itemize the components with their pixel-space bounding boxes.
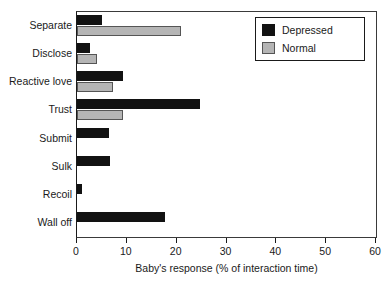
x-tick-20 <box>176 238 177 243</box>
bar-chart: SeparateDiscloseReactive loveTrustSubmit… <box>0 0 392 286</box>
x-tick-label-10: 10 <box>111 245 141 257</box>
x-tick-label-40: 40 <box>260 245 290 257</box>
bar-group-submit <box>77 125 376 153</box>
x-axis-tick-labels: 0102030405060 <box>0 245 392 259</box>
bar-depressed-recoil <box>77 184 82 194</box>
bar-group-wall-off <box>77 209 376 237</box>
x-axis-ticks <box>76 238 377 244</box>
y-label-disclose: Disclose <box>0 48 72 59</box>
legend-label-normal: Normal <box>282 42 316 54</box>
bar-group-recoil <box>77 181 376 209</box>
legend-item-normal: Normal <box>262 40 316 56</box>
bar-normal-trust <box>77 110 123 120</box>
y-label-submit: Submit <box>0 133 72 144</box>
bar-depressed-separate <box>77 15 102 25</box>
x-tick-60 <box>375 238 376 243</box>
legend-item-depressed: Depressed <box>262 22 333 38</box>
x-tick-label-50: 50 <box>310 245 340 257</box>
bar-normal-separate <box>77 26 181 36</box>
bar-depressed-trust <box>77 99 200 109</box>
x-tick-0 <box>76 238 77 243</box>
y-label-recoil: Recoil <box>0 189 72 200</box>
legend-swatch-normal-icon <box>262 42 275 54</box>
y-label-wall-off: Wall off <box>0 217 72 228</box>
bar-depressed-reactive-love <box>77 71 123 81</box>
y-label-reactive-love: Reactive love <box>0 76 72 87</box>
x-tick-label-0: 0 <box>61 245 91 257</box>
bar-depressed-disclose <box>77 43 90 53</box>
bar-normal-reactive-love <box>77 82 113 92</box>
legend-swatch-depressed-icon <box>262 24 275 36</box>
x-tick-40 <box>275 238 276 243</box>
x-tick-50 <box>325 238 326 243</box>
x-tick-30 <box>226 238 227 243</box>
clipped-chart-title <box>96 0 326 1</box>
bar-group-trust <box>77 96 376 124</box>
x-tick-label-30: 30 <box>211 245 241 257</box>
bar-normal-disclose <box>77 54 97 64</box>
chart-legend: Depressed Normal <box>255 17 365 61</box>
y-label-separate: Separate <box>0 20 72 31</box>
legend-label-depressed: Depressed <box>282 24 333 36</box>
x-tick-label-60: 60 <box>360 245 390 257</box>
bar-depressed-sulk <box>77 156 110 166</box>
bar-group-sulk <box>77 153 376 181</box>
y-label-trust: Trust <box>0 104 72 115</box>
x-tick-10 <box>126 238 127 243</box>
x-axis-title: Baby's response (% of interaction time) <box>76 262 377 274</box>
y-axis-category-labels: SeparateDiscloseReactive loveTrustSubmit… <box>0 12 72 237</box>
bar-depressed-wall-off <box>77 212 165 222</box>
x-tick-label-20: 20 <box>161 245 191 257</box>
y-label-sulk: Sulk <box>0 161 72 172</box>
bar-group-reactive-love <box>77 68 376 96</box>
bar-depressed-submit <box>77 128 109 138</box>
